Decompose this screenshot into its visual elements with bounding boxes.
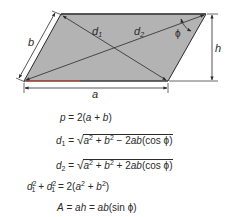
formula-diagonal-2: d2 = √a2 + b2 + 2ab(cos ϕ) — [56, 156, 173, 175]
formula-perimeter: p = 2(a + b) — [60, 108, 112, 127]
parallelogram-diagram: b a h d1 d2 ϕ — [0, 0, 227, 100]
formula-area: A = ah = ab(sin ϕ) — [57, 198, 137, 217]
label-phi: ϕ — [175, 28, 181, 39]
formula-list: p = 2(a + b) d1 = √a2 + b2 − 2ab(cos ϕ) … — [0, 100, 227, 217]
label-a: a — [92, 88, 98, 100]
formula-diagonal-1: d1 = √a2 + b2 − 2ab(cos ϕ) — [56, 131, 173, 150]
label-b: b — [28, 36, 34, 48]
label-h: h — [215, 42, 221, 54]
formula-diagonal-sum: d21 + d21 = 2(a2 + b2) — [27, 177, 109, 196]
